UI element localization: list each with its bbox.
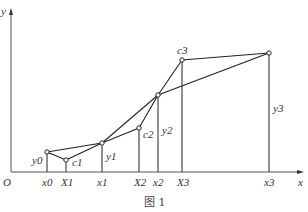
y-value-label: y0	[31, 154, 43, 166]
x-tick-label: X1	[60, 176, 73, 188]
x-tick-label: x1	[96, 176, 107, 188]
x-tick-label: X3	[176, 176, 190, 188]
y-value-label: y2	[161, 124, 173, 136]
control-point-label: c3	[177, 44, 188, 56]
y-value-label: y1	[105, 150, 116, 162]
control-point-label: c1	[72, 156, 82, 168]
drop-lines	[47, 53, 269, 172]
y-value-label: y3	[272, 102, 284, 114]
x-tick-label: X2	[133, 176, 147, 188]
x-axis-arrow-icon	[297, 170, 304, 174]
x-tick-label: x3	[263, 176, 275, 188]
control-point-label: c2	[143, 128, 154, 140]
figure-caption: 图 1	[144, 196, 166, 209]
x-tick-label: x2	[152, 176, 164, 188]
figure-diagram: y x O x0 X1 x1 X2 x2 X3 x3 y0 y1 y2 y3 c…	[0, 0, 308, 212]
y-axis-label: y	[0, 5, 6, 17]
y-axis-arrow-icon	[9, 8, 13, 15]
x-tick-label: x0	[41, 176, 53, 188]
x-axis-label: x	[297, 176, 303, 188]
origin-label: O	[3, 176, 11, 188]
